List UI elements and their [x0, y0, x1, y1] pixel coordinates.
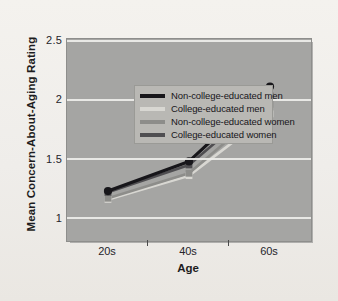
plot-panel: Non-college-educated men College-educate…	[66, 38, 312, 242]
legend-swatch-college-educated-men	[140, 107, 165, 111]
y-tick-label: 1	[28, 212, 62, 224]
y-axis-tick-labels: 2.5 2 1.5 1	[24, 38, 62, 240]
x-tick-label: 40s	[168, 245, 208, 257]
x-axis-title: Age	[66, 262, 310, 274]
chart-figure: Mean Concern-About-Aging Rating 2.5 2 1.…	[0, 0, 338, 301]
legend-item: Non-college-educated women	[140, 115, 268, 128]
y-tick-label: 2.5	[28, 34, 62, 46]
legend-item: College-educated women	[140, 128, 268, 141]
y-tick-label: 1.5	[28, 153, 62, 165]
legend-swatch-non-college-educated-women	[140, 120, 165, 124]
x-tick-label: 20s	[87, 245, 127, 257]
gridline-1	[67, 217, 311, 219]
chart-legend: Non-college-educated men College-educate…	[134, 85, 273, 144]
x-tick-label: 60s	[249, 245, 289, 257]
legend-swatch-non-college-educated-men	[140, 94, 165, 98]
legend-swatch-college-educated-women	[140, 133, 165, 137]
legend-item: College-educated men	[140, 102, 268, 115]
x-axis-tick-labels: 20s 40s 60s	[66, 245, 310, 261]
y-tick-label: 2	[28, 93, 62, 105]
legend-label: College-educated men	[171, 103, 265, 114]
gridline-1.5	[67, 158, 311, 160]
legend-item: Non-college-educated men	[140, 89, 268, 102]
legend-label: Non-college-educated men	[171, 90, 283, 101]
legend-label: College-educated women	[171, 129, 277, 140]
gridline-2.5	[67, 40, 311, 42]
legend-label: Non-college-educated women	[171, 116, 295, 127]
